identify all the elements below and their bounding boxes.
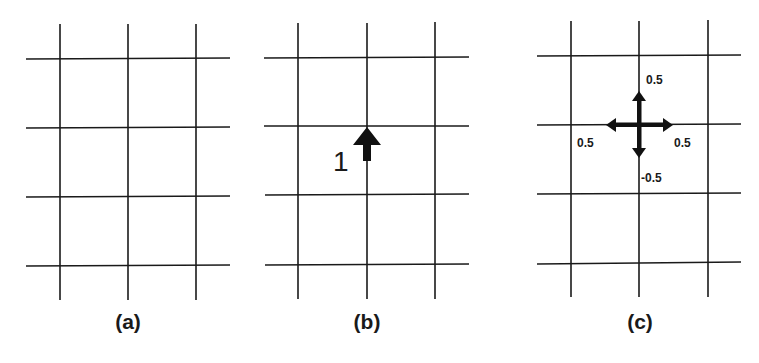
label-right: 0.5	[674, 136, 691, 150]
caption-c: (c)	[627, 310, 653, 334]
label-left: 0.5	[577, 136, 594, 150]
label-up: 0.5	[646, 73, 663, 87]
label-down: -0.5	[641, 171, 662, 185]
